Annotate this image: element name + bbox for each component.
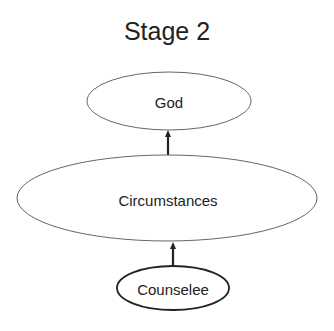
node-god: God <box>87 72 251 130</box>
node-circumstances: Circumstances <box>17 155 317 241</box>
node-circumstances-label: Circumstances <box>118 192 217 209</box>
arrow-up-icon <box>170 242 176 249</box>
node-god-label: God <box>155 94 183 111</box>
node-counselee: Counselee <box>117 266 229 310</box>
diagram-canvas: God Circumstances Counselee <box>0 0 334 331</box>
edge-counselee-to-circumstances <box>170 242 176 266</box>
arrow-up-icon <box>165 130 171 137</box>
edge-circumstances-to-god <box>165 130 171 155</box>
node-counselee-label: Counselee <box>137 281 209 298</box>
